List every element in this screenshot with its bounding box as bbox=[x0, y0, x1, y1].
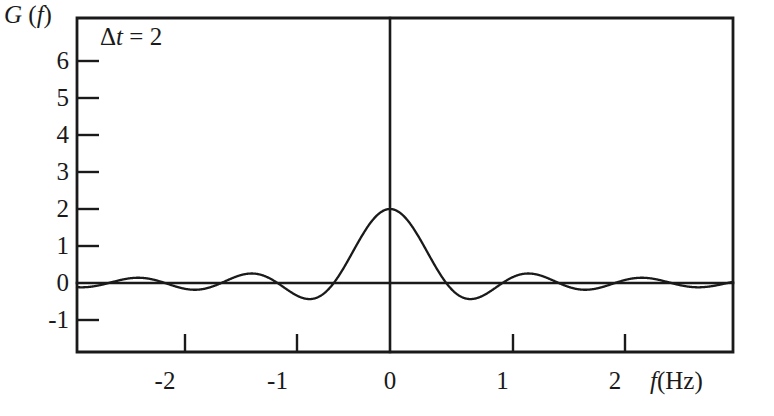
x-axis-title: f(Hz) bbox=[650, 368, 703, 393]
delta-variable: t bbox=[116, 23, 123, 50]
x-tick-label-minus-1: -1 bbox=[248, 368, 308, 393]
delta-equals-value: = 2 bbox=[123, 23, 162, 50]
y-tick-label-1: 1 bbox=[25, 233, 69, 258]
y-tick-label-3: 3 bbox=[25, 159, 69, 184]
y-axis-title-arg: (f) bbox=[22, 1, 52, 28]
y-tick-label-2: 2 bbox=[25, 196, 69, 221]
x-tick-label-0: 0 bbox=[360, 368, 420, 393]
figure-container: G (f) f(Hz) Δt = 2 6543210-1 -2-1012 bbox=[0, 0, 774, 416]
y-tick-label-4: 4 bbox=[25, 122, 69, 147]
y-tick-label-6: 6 bbox=[25, 48, 69, 73]
sinc-plot-svg bbox=[0, 0, 774, 416]
x-axis-title-unit: (Hz) bbox=[657, 367, 703, 394]
y-tick-marks bbox=[77, 61, 99, 320]
delta-t-annotation: Δt = 2 bbox=[100, 24, 162, 49]
plot-frame bbox=[77, 18, 733, 352]
x-tick-marks bbox=[185, 334, 625, 352]
x-tick-label-minus-2: -2 bbox=[135, 368, 195, 393]
y-axis-title-symbol: G bbox=[4, 1, 22, 28]
delta-symbol: Δ bbox=[100, 23, 116, 50]
y-tick-label-5: 5 bbox=[25, 85, 69, 110]
y-tick-label-minus-1: -1 bbox=[25, 307, 69, 332]
y-tick-label-0: 0 bbox=[25, 270, 69, 295]
x-axis-title-symbol: f bbox=[650, 367, 657, 394]
y-axis-title: G (f) bbox=[4, 2, 52, 27]
x-tick-label-1: 1 bbox=[473, 368, 533, 393]
x-tick-label-2: 2 bbox=[585, 368, 645, 393]
sinc-curve bbox=[77, 209, 733, 299]
